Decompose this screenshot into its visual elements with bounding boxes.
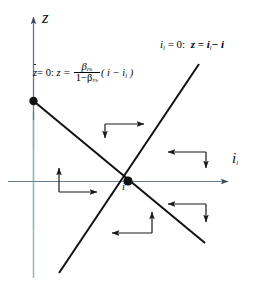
- fraction-denominator: 1−βPb: [74, 72, 100, 84]
- ildot-rhs-tail: − i: [212, 38, 224, 50]
- zdot-symbol: z: [33, 67, 37, 78]
- equilibrium-point-label: i: [122, 180, 125, 192]
- ildot-rhs: z = i: [191, 38, 210, 50]
- beta-denominator-sub: Pb: [92, 79, 98, 84]
- ildot-symbol-sub: l: [163, 44, 165, 51]
- beta-denominator: 1−β: [76, 72, 93, 83]
- arrow-pair-left: [59, 168, 97, 192]
- beta-fraction: βPb 1−βPb: [74, 62, 100, 85]
- il-axis-label: il: [232, 150, 238, 167]
- il-axis-label-sub: l: [236, 159, 238, 166]
- fraction-numerator: βPb: [74, 62, 100, 73]
- zdot-condition: = 0:: [37, 67, 54, 78]
- zdot-factor: ( i − i: [101, 67, 125, 78]
- z-axis-label: z: [42, 8, 49, 28]
- phase-plane-figure: z il z= 0: z = βPb 1−βPb ( i − il ) il =…: [0, 0, 266, 284]
- arrow-pair-lower-right: [168, 204, 206, 222]
- z-axis-intercept-point: [29, 97, 37, 105]
- arrow-pair-upper-middle: [105, 124, 144, 138]
- ildot-condition: = 0:: [168, 38, 186, 50]
- arrow-pair-lower-middle: [112, 212, 152, 233]
- beta-numerator-sub: Pb: [87, 67, 93, 72]
- zdot-lhs: z =: [56, 67, 70, 78]
- ildot-nullcline-label: il = 0: z = il− i: [160, 38, 224, 51]
- arrow-pair-upper-right: [168, 152, 206, 168]
- zdot-factor-close: ): [127, 67, 133, 78]
- ildot-nullcline-line: [59, 64, 199, 273]
- zdot-nullcline-label: z= 0: z = βPb 1−βPb ( i − il ): [33, 62, 133, 85]
- diagram-canvas: [0, 0, 266, 284]
